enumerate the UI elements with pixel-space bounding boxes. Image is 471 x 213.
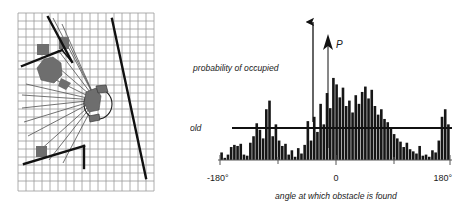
histogram-bar	[303, 145, 306, 160]
histogram-bar	[297, 148, 300, 160]
obstacle-cell-a	[37, 44, 49, 55]
histogram-bar	[399, 142, 402, 160]
histogram-bar	[425, 155, 428, 160]
histogram-bar	[415, 154, 418, 160]
histogram-bar	[329, 108, 332, 160]
x-tick-label-max: 180°	[433, 173, 452, 183]
x-axis-label: angle at which obstacle is found	[275, 191, 397, 201]
histogram-bar	[313, 117, 316, 160]
histogram-bar	[291, 150, 294, 160]
occupancy-grid-map-panel	[0, 0, 190, 213]
threshold-label: threshold	[190, 123, 202, 133]
histogram-bar	[342, 88, 345, 160]
p-symbol-label: P	[336, 39, 343, 50]
histogram-bar	[319, 104, 322, 160]
histogram-bar	[275, 124, 278, 160]
histogram-bar	[227, 155, 230, 160]
figure-root: P probability of occupied threshold -180…	[0, 0, 471, 213]
histogram-bar	[271, 136, 274, 160]
occupancy-grid-map-svg	[0, 0, 190, 213]
histogram-bar	[323, 124, 326, 160]
x-tick-label-zero: 0	[333, 173, 338, 183]
histogram-bar	[438, 141, 441, 160]
histogram-bar	[374, 106, 377, 160]
histogram-bar	[447, 124, 450, 160]
histogram-bar	[236, 146, 239, 160]
histogram-bar	[316, 132, 319, 160]
histogram-bar	[287, 155, 290, 160]
histogram-bar	[406, 143, 409, 160]
histogram-bar	[412, 151, 415, 160]
histogram-bar	[284, 144, 287, 160]
histogram-bar	[351, 112, 354, 160]
histogram-bar	[393, 134, 396, 160]
histogram-bar	[422, 156, 425, 160]
histogram-bar	[409, 149, 412, 160]
histogram-bar	[358, 104, 361, 160]
histogram-bar	[431, 150, 434, 160]
histogram-bar	[367, 98, 370, 160]
histogram-bar	[281, 146, 284, 160]
histogram-bar	[402, 147, 405, 160]
histogram-bar	[361, 92, 364, 160]
histogram-bar	[345, 106, 348, 160]
y-axis-label: probability of occupied	[192, 63, 279, 73]
histogram-svg: P probability of occupied threshold -180…	[190, 0, 471, 213]
histogram-bar	[335, 84, 338, 160]
histogram-bar	[390, 129, 393, 160]
histogram-bar	[434, 152, 437, 160]
histogram-bar	[377, 115, 380, 160]
histogram-bar	[300, 154, 303, 160]
histogram-bar	[265, 109, 268, 160]
robot-marker-top	[96, 85, 108, 93]
histogram-bar	[239, 144, 242, 160]
histogram-bar	[262, 138, 265, 160]
histogram-bars	[220, 78, 449, 160]
histogram-bar	[441, 117, 444, 160]
histogram-bar	[268, 101, 271, 160]
histogram-bar	[418, 146, 421, 160]
x-tick-label-min: -180°	[207, 173, 229, 183]
histogram-bar	[444, 109, 447, 160]
histogram-panel: P probability of occupied threshold -180…	[190, 0, 471, 213]
histogram-bar	[233, 145, 236, 160]
histogram-bar	[243, 155, 246, 160]
histogram-bar	[364, 87, 367, 160]
histogram-bar	[396, 138, 399, 160]
histogram-bar	[310, 141, 313, 160]
histogram-bar	[230, 147, 233, 160]
histogram-bar	[348, 101, 351, 160]
histogram-bar	[252, 136, 255, 160]
histogram-bar	[246, 156, 249, 160]
histogram-bar	[383, 119, 386, 160]
histogram-bar	[370, 90, 373, 160]
obstacle-cell-c	[36, 146, 47, 157]
histogram-bar	[259, 130, 262, 160]
histogram-bar	[380, 109, 383, 160]
histogram-bar	[332, 78, 335, 160]
histogram-bar	[249, 143, 252, 160]
histogram-bar	[220, 152, 223, 160]
